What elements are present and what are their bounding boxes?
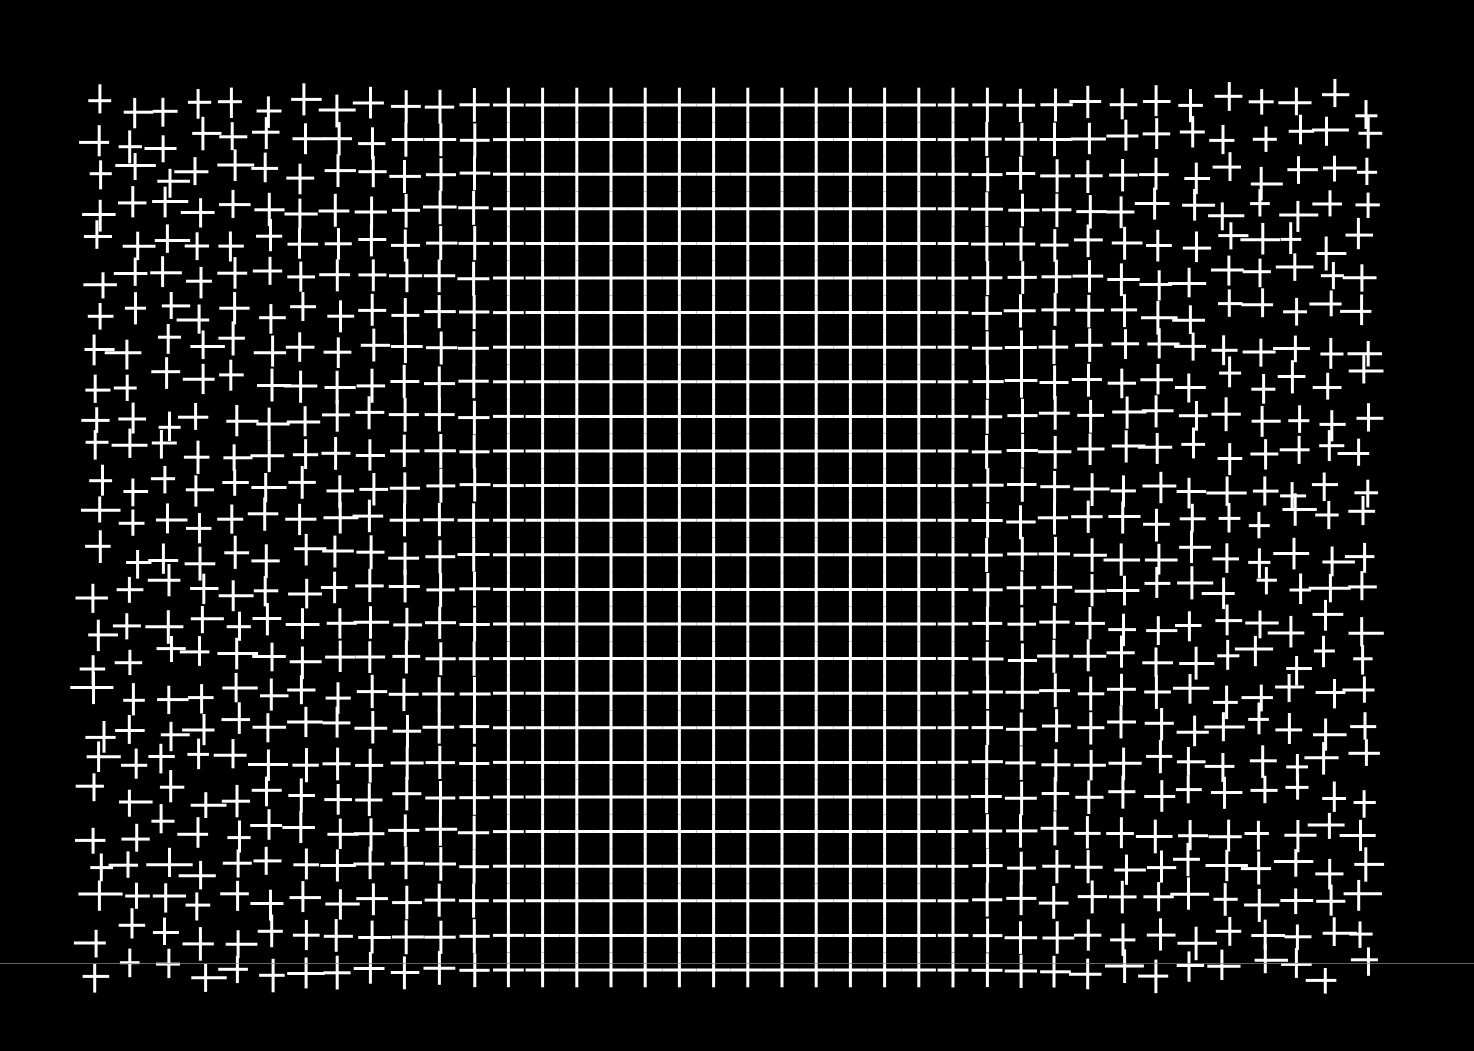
- distorted-grid-canvas: [0, 0, 1474, 1051]
- scanline-artifact: [0, 963, 1474, 964]
